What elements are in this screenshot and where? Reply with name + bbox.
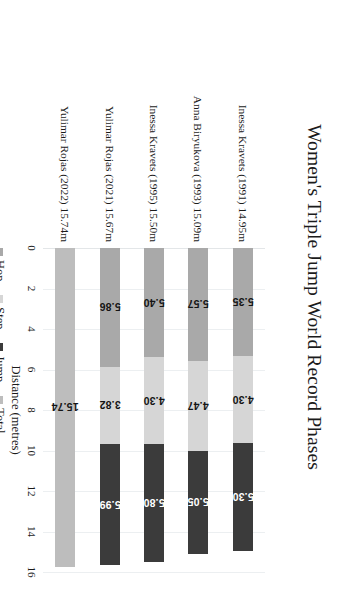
- legend-swatch-icon: [0, 396, 4, 404]
- x-tick-label: 8: [26, 407, 38, 413]
- bar-row[interactable]: 5.404.305.80: [144, 248, 164, 572]
- bar-segment-value: 5.05: [188, 496, 209, 508]
- x-tick-label: 12: [26, 486, 38, 497]
- bar-segment-jump[interactable]: 5.05: [188, 451, 208, 553]
- bar-segment-value: 5.86: [99, 301, 120, 313]
- x-tick-label: 0: [26, 245, 38, 251]
- bar-segment-value: 5.99: [99, 499, 120, 511]
- bar-segment-hop[interactable]: 5.35: [233, 248, 253, 356]
- legend-swatch-icon: [0, 295, 4, 303]
- bar-row[interactable]: 5.863.825.99: [100, 248, 120, 572]
- bar-segment-value: 5.30: [232, 491, 253, 503]
- legend-item-total[interactable]: Total: [0, 396, 7, 433]
- x-tick-label: 14: [26, 526, 38, 537]
- x-tick-label: 10: [26, 445, 38, 456]
- chart-figure: Women's Triple Jump World Record Phases …: [0, 0, 343, 594]
- legend-swatch-icon: [0, 343, 4, 351]
- bar-row[interactable]: 15.74: [55, 248, 75, 572]
- x-tick-label: 16: [26, 567, 38, 578]
- category-label: Anna Biryukova (1993) 15.09m: [183, 96, 213, 242]
- chart-legend: HopStepJumpTotal: [0, 248, 7, 572]
- category-label: Inessa Kravets (1991) 14.95m: [228, 105, 258, 242]
- bar-segment-total[interactable]: 15.74: [55, 248, 75, 567]
- legend-label: Step: [0, 307, 7, 329]
- bar-segment-step[interactable]: 4.30: [233, 356, 253, 443]
- chart-title: Women's Triple Jump World Record Phases: [303, 0, 325, 594]
- bar-segment-jump[interactable]: 5.30: [233, 443, 253, 550]
- category-label: Yulimar Rojas (2021) 15.67m: [95, 106, 125, 242]
- bar-segment-value: 4.47: [188, 400, 209, 412]
- bar-segment-value: 3.82: [99, 399, 120, 411]
- bar-segment-hop[interactable]: 5.40: [144, 248, 164, 357]
- gridline: [43, 572, 265, 573]
- legend-label: Total: [0, 408, 7, 433]
- legend-swatch-icon: [0, 248, 4, 256]
- legend-item-step[interactable]: Step: [0, 295, 7, 329]
- bar-segment-value: 5.40: [143, 297, 164, 309]
- bar-segment-value: 5.35: [232, 296, 253, 308]
- category-label: Yulimar Rojas (2022) 15.74m: [50, 106, 80, 242]
- category-label: Inessa Kravets (1995) 15.50m: [139, 105, 169, 242]
- legend-label: Hop: [0, 260, 7, 281]
- bar-segment-step[interactable]: 4.30: [144, 357, 164, 444]
- bar-segment-hop[interactable]: 5.86: [100, 248, 120, 367]
- x-axis-title: Distance (metres): [8, 248, 23, 572]
- x-tick-label: 2: [26, 286, 38, 292]
- bar-segment-hop[interactable]: 5.57: [188, 248, 208, 361]
- legend-label: Jump: [0, 355, 7, 382]
- plot-area: 5.354.305.305.574.475.055.404.305.805.86…: [43, 248, 265, 572]
- bar-segment-step[interactable]: 3.82: [100, 367, 120, 444]
- bar-row[interactable]: 5.574.475.05: [188, 248, 208, 572]
- bar-segment-jump[interactable]: 5.80: [144, 444, 164, 561]
- bar-segment-step[interactable]: 4.47: [188, 361, 208, 452]
- legend-item-jump[interactable]: Jump: [0, 343, 7, 382]
- bar-row[interactable]: 5.354.305.30: [233, 248, 253, 572]
- legend-item-hop[interactable]: Hop: [0, 248, 7, 281]
- bar-segment-value: 15.74: [52, 401, 79, 413]
- bar-segment-value: 5.57: [188, 298, 209, 310]
- category-axis: Inessa Kravets (1991) 14.95mAnna Biryuko…: [43, 0, 265, 242]
- rotated-figure-wrapper: Women's Triple Jump World Record Phases …: [0, 0, 343, 594]
- x-tick-label: 4: [26, 326, 38, 332]
- bar-segment-jump[interactable]: 5.99: [100, 444, 120, 565]
- bar-segment-value: 5.80: [143, 497, 164, 509]
- x-tick-label: 6: [26, 367, 38, 373]
- bar-segment-value: 4.30: [143, 395, 164, 407]
- bar-segment-value: 4.30: [232, 394, 253, 406]
